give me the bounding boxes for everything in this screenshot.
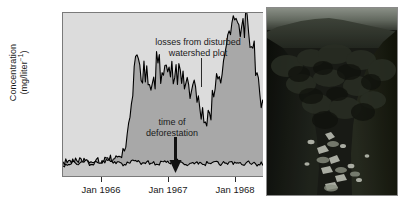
y-axis-units-post: ) [18, 50, 28, 53]
y-axis-label-line1: Concentration [8, 44, 18, 101]
x-tick-label-1: Jan 1967 [149, 184, 188, 195]
annotation-deforestation-line1: time of [158, 117, 185, 127]
figure-root: Concentration (mg/liter−1) 01357911 Jan … [0, 0, 405, 204]
x-tick-0 [101, 177, 102, 182]
x-tick-1 [168, 177, 169, 182]
annotation-disturbed-line1: losses from disturbed [155, 37, 241, 47]
forested-watershed-photograph [266, 7, 398, 196]
concentration-chart: Concentration (mg/liter−1) 01357911 Jan … [0, 0, 266, 204]
y-axis-units-pre: (mg/liter [18, 61, 28, 94]
x-tick-label-2: Jan 1968 [216, 184, 255, 195]
leader-line-icon [201, 58, 202, 87]
x-tick-2 [235, 177, 236, 182]
y-axis-label: Concentration (mg/liter−1) [8, 18, 29, 128]
photo-image [267, 8, 397, 195]
plot-area: losses from disturbed watershed plot tim… [62, 12, 263, 177]
y-axis-label-line2: (mg/liter−1) [18, 18, 29, 128]
x-tick-label-0: Jan 1966 [82, 184, 121, 195]
annotation-disturbed: losses from disturbed watershed plot [138, 37, 258, 58]
annotation-deforestation: time of deforestation [129, 117, 215, 138]
y-axis-units-exponent: −1 [16, 54, 23, 62]
annotation-deforestation-line2: deforestation [146, 128, 198, 138]
down-arrow-icon [169, 137, 182, 173]
annotation-disturbed-line2: watershed plot [169, 48, 228, 58]
